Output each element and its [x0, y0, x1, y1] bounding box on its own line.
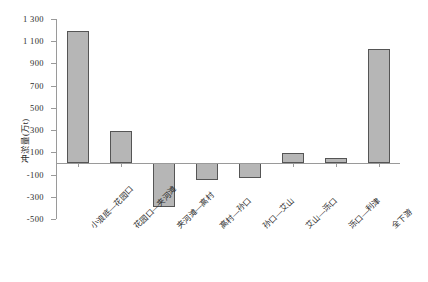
y-tick-label: 1 100	[23, 36, 44, 46]
y-tick-label: 1 300	[23, 14, 44, 24]
y-tick-mark	[51, 41, 56, 42]
y-tick-mark	[51, 130, 56, 131]
x-axis-line	[56, 163, 400, 164]
y-tick-label: 300	[30, 125, 44, 135]
y-tick-mark	[51, 152, 56, 153]
bar	[282, 153, 304, 163]
x-tick-label: 高村—孙口	[217, 223, 225, 231]
y-tick-mark	[51, 175, 56, 176]
bar-chart: 冲淤量(万t) 1 3001 100900700500300100-100-30…	[0, 0, 428, 282]
y-tick-label: -100	[27, 170, 44, 180]
y-tick-mark	[51, 108, 56, 109]
y-tick-label: 500	[30, 103, 44, 113]
y-tick-mark	[51, 86, 56, 87]
x-tick-label: 全下游	[389, 223, 397, 231]
y-tick-label: 700	[30, 81, 44, 91]
y-tick-mark	[51, 19, 56, 20]
x-tick-label: 泺口—利津	[346, 223, 354, 231]
x-tick-label: 艾山—泺口	[303, 223, 311, 231]
x-tick-label: 花园口—夹河滩	[131, 223, 139, 231]
y-tick-label: 900	[30, 58, 44, 68]
bar	[110, 131, 132, 163]
x-tick-label: 孙口—艾山	[260, 223, 268, 231]
bar	[368, 49, 390, 163]
y-tick-mark	[51, 63, 56, 64]
y-axis-line	[56, 19, 57, 219]
y-tick-label: -500	[27, 214, 44, 224]
bar	[196, 163, 218, 180]
y-axis-title: 冲淤量(万t)	[18, 119, 30, 163]
x-tick-label: 夹河滩—高村	[174, 223, 182, 231]
y-tick-mark	[51, 219, 56, 220]
bar	[239, 163, 261, 177]
bar	[67, 31, 89, 163]
y-tick-mark	[51, 197, 56, 198]
y-tick-label: -300	[27, 192, 44, 202]
x-tick-label: 小浪底—花园口	[88, 223, 96, 231]
y-tick-label: 100	[30, 147, 44, 157]
